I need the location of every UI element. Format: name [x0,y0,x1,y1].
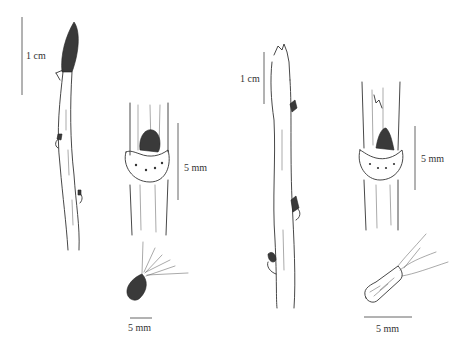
seed-a: 5 mm [127,242,188,333]
stem-b-right [290,80,295,308]
stem-a-right [71,72,79,250]
stem-a-left [58,72,68,250]
scale-label-leaf-scar-b: 5 mm [421,153,444,164]
seed-body-a [127,274,146,300]
twig-b: 1 cm [240,44,300,308]
twig-a: 1 cm [22,17,82,250]
terminal-bud-b [274,44,290,80]
scale-label-leaf-scar-a: 5 mm [184,162,207,173]
axillary-bud-b [376,128,394,150]
scale-label-seed-a: 5 mm [128,322,151,333]
scale-label-twig-a: 1 cm [26,50,46,61]
seed-body-b [365,266,402,302]
seed-b: 5 mm [364,234,448,334]
scale-label-twig-b: 1 cm [240,73,260,84]
leaf-scar-shape-b [359,150,403,180]
scale-label-seed-b: 5 mm [376,323,399,334]
leaf-scar-shape-a [125,150,169,182]
terminal-bud-a [62,22,79,72]
botanical-illustration: 1 cm 5 mm 5 mm 1 cm [0,0,471,347]
stem-b-left [271,62,277,308]
leaf-scar-b: 5 mm [359,82,444,230]
axillary-bud-a [140,130,160,152]
leaf-scar-a: 5 mm [125,103,207,235]
